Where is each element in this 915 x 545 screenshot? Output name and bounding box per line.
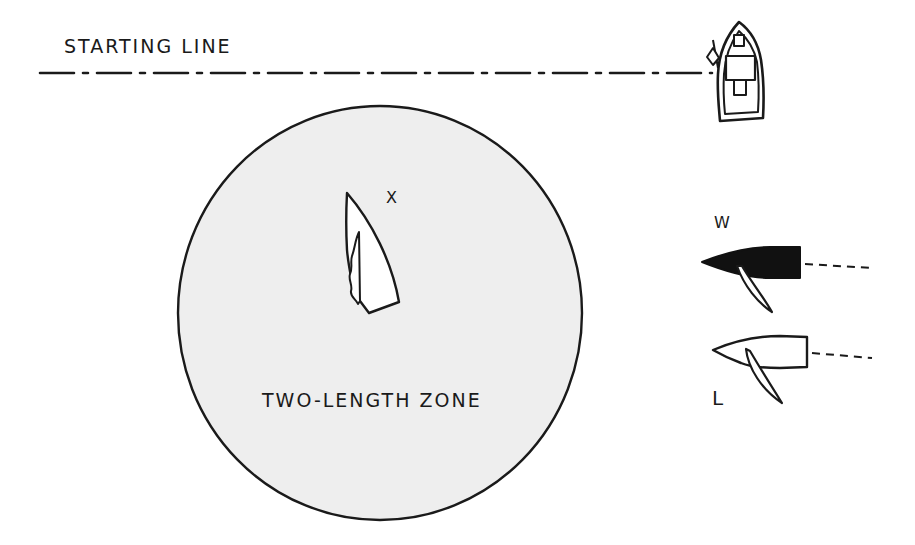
starting-line-label: STARTING LINE — [64, 37, 232, 56]
boat-w-icon — [702, 247, 872, 312]
boat-w-wake — [805, 264, 872, 268]
two-length-zone-label: TWO-LENGTH ZONE — [262, 391, 482, 410]
committee-boat-icon — [707, 22, 764, 121]
boat-l-icon — [713, 336, 872, 403]
boat-x-label: X — [386, 190, 399, 206]
two-length-zone — [178, 106, 582, 520]
boat-l-label: L — [712, 388, 725, 408]
boat-w-label: W — [714, 215, 732, 231]
diagram-canvas — [0, 0, 915, 545]
boat-l-wake — [812, 353, 872, 358]
